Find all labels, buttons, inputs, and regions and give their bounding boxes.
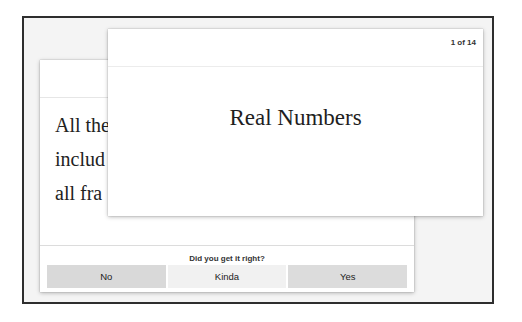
flashcard-term: Real Numbers — [108, 105, 483, 131]
front-card-header: 1 of 14 — [108, 29, 483, 67]
yes-button[interactable]: Yes — [288, 265, 407, 288]
self-assessment-prompt: Did you get it right? — [40, 253, 414, 264]
card-counter: 1 of 14 — [451, 38, 476, 47]
kinda-button[interactable]: Kinda — [168, 265, 287, 288]
self-assessment-footer: Did you get it right? No Kinda Yes — [40, 245, 414, 292]
flashcard-front[interactable]: 1 of 14 Real Numbers — [108, 29, 483, 216]
self-assessment-buttons: No Kinda Yes — [47, 265, 407, 288]
no-button[interactable]: No — [47, 265, 166, 288]
